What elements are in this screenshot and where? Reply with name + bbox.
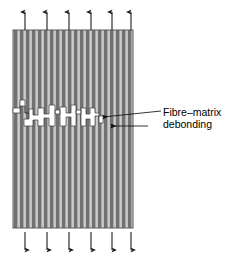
fibre-matrix-debonding-diagram <box>0 0 234 264</box>
composite-specimen <box>13 30 133 228</box>
annotation-label-line-2: debonding <box>163 118 212 130</box>
tensile-load-arrows-bottom <box>25 232 131 250</box>
tensile-load-arrows-top <box>25 12 131 30</box>
specimen-fibre-matrix-fill <box>13 30 133 228</box>
annotation-label-line-1: Fibre–matrix <box>163 106 221 118</box>
